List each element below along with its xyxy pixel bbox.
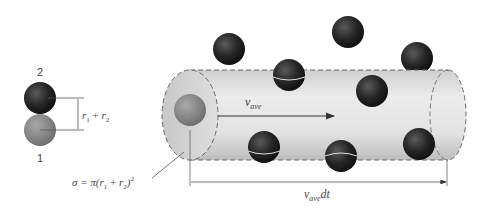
molecule-sphere xyxy=(325,140,357,172)
molecule-2-label: 2 xyxy=(37,66,43,78)
molecule-sphere xyxy=(401,42,433,74)
molecule-sphere xyxy=(273,59,305,91)
molecule-sphere xyxy=(248,131,280,163)
molecule-1-label: 1 xyxy=(37,152,43,164)
left-inset: 2 1 r1 + r2 xyxy=(24,66,110,164)
cross-section-leader-line xyxy=(152,152,184,178)
collision-diagram: 2 1 r1 + r2 vave vavedt xyxy=(0,0,498,209)
moving-molecule-sphere xyxy=(174,94,206,126)
molecule-sphere xyxy=(332,16,364,48)
molecule-sphere xyxy=(356,75,388,107)
cross-section-label: σ = π(r1 + r2)2 xyxy=(72,175,134,191)
length-label: vavedt xyxy=(304,187,330,203)
separation-label: r1 + r2 xyxy=(82,109,110,124)
molecule-sphere xyxy=(403,128,435,160)
molecule-sphere xyxy=(213,33,245,65)
